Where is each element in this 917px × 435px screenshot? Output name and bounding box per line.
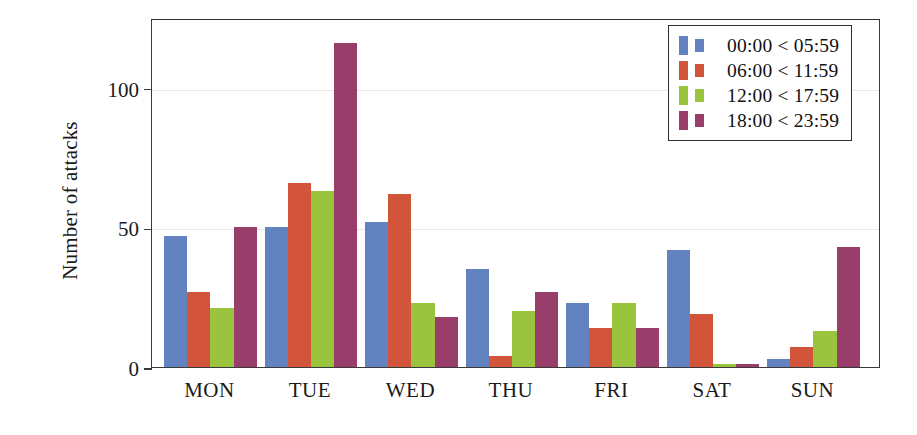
bar-fri-series-1 [566,303,589,367]
bar-tue-series-1 [265,227,288,367]
legend-swatch-group [679,111,717,130]
x-axis-label-wed: WED [386,378,435,403]
y-tick-label-100: 100 [108,77,140,102]
bar-fri-series-2 [589,328,612,367]
bar-chart: Number of attacks 050100 MONTUEWEDTHUFRI… [0,0,917,435]
bar-sat-series-1 [667,250,690,367]
bar-fri-series-3 [612,303,635,367]
legend-color-swatch-short [695,114,704,127]
bar-sat-series-4 [736,364,759,367]
legend-item-1[interactable]: 00:00 < 05:59 [679,33,839,58]
legend-swatch-group [679,86,717,105]
legend-color-swatch-short [695,39,704,52]
legend-swatch-group [679,36,717,55]
legend-label: 12:00 < 17:59 [727,85,839,107]
bar-thu-series-4 [535,292,558,367]
legend-item-2[interactable]: 06:00 < 11:59 [679,58,839,83]
bar-sun-series-1 [767,359,790,367]
legend-label: 06:00 < 11:59 [727,60,838,82]
bar-sat-series-3 [713,364,736,367]
y-tick-mark-50 [144,229,152,230]
legend: 00:00 < 05:5906:00 < 11:5912:00 < 17:591… [668,25,852,141]
legend-item-4[interactable]: 18:00 < 23:59 [679,108,839,133]
x-axis-label-sat: SAT [692,378,731,403]
legend-color-swatch-tall [679,61,688,80]
bar-wed-series-1 [365,222,388,367]
bar-mon-series-1 [164,236,187,367]
y-axis-title: Number of attacks [58,71,83,331]
legend-color-swatch-tall [679,36,688,55]
y-tick-mark-100 [144,89,152,90]
legend-color-swatch-short [695,89,704,102]
x-axis-label-mon: MON [184,378,235,403]
x-axis-label-tue: TUE [289,378,331,403]
x-axis-label-thu: THU [489,378,534,403]
bar-thu-series-3 [512,311,535,367]
legend-color-swatch-tall [679,111,688,130]
bar-mon-series-3 [210,308,233,367]
bar-sun-series-4 [837,247,860,367]
bar-sun-series-2 [790,347,813,367]
bar-sat-series-2 [690,314,713,367]
bar-fri-series-4 [636,328,659,367]
y-tick-label-50: 50 [118,217,139,242]
y-tick-label-0: 0 [129,357,140,382]
bar-thu-series-1 [466,269,489,367]
bar-tue-series-2 [288,183,311,367]
bar-thu-series-2 [489,356,512,367]
gridline-50 [152,229,879,230]
legend-color-swatch-short [695,64,704,77]
bar-tue-series-4 [334,43,357,367]
x-axis-label-fri: FRI [594,378,628,403]
bar-sun-series-3 [813,331,836,367]
y-tick-mark-0 [144,368,152,369]
bar-wed-series-2 [388,194,411,367]
legend-label: 18:00 < 23:59 [727,110,839,132]
x-axis-label-sun: SUN [791,378,835,403]
legend-label: 00:00 < 05:59 [727,35,839,57]
bar-mon-series-4 [234,227,257,367]
bar-mon-series-2 [187,292,210,367]
legend-swatch-group [679,61,717,80]
bar-wed-series-4 [435,317,458,367]
bar-tue-series-3 [311,191,334,367]
legend-item-3[interactable]: 12:00 < 17:59 [679,83,839,108]
bar-wed-series-3 [411,303,434,367]
legend-color-swatch-tall [679,86,688,105]
